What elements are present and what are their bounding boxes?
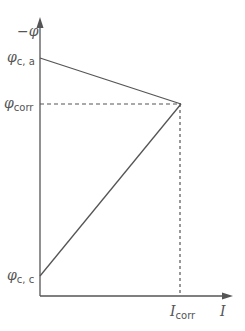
phi-corr-label: φcorr [4, 96, 33, 112]
i-corr-label: Icorr [170, 304, 195, 320]
cathodic-line [40, 104, 181, 276]
diagram-graphics [0, 0, 245, 331]
x-axis-label: I [220, 304, 226, 318]
anodic-line [40, 58, 181, 104]
phi-ca-label: φc, a [7, 50, 35, 66]
evans-diagram: −φ φc, a φcorr φc, c Icorr I [0, 0, 245, 331]
x-axis-arrow-icon [222, 293, 233, 300]
phi-cc-label: φc, c [7, 268, 34, 284]
y-axis-label: −φ [17, 24, 39, 38]
